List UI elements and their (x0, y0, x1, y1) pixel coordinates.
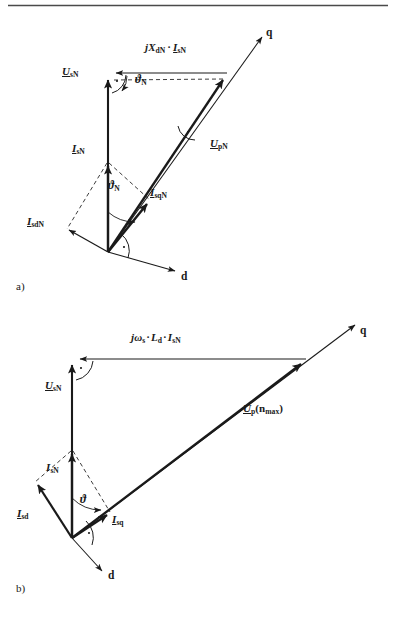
panel-b-dashed-IsN-to-Isq (73, 451, 110, 512)
panel-b-d-axis (72, 538, 102, 571)
panel-a-angle-theta-N-lower-sub: N (114, 184, 119, 193)
panel-b-label-I_sN-sub: sN (50, 466, 58, 475)
panel-a-q-axis-label: q (266, 27, 273, 39)
panel-a-label-I_sdN: IsdN (27, 216, 44, 228)
panel-a-dashed-UsN-to-UpN (114, 79, 223, 80)
panel-a-expr-dot: · (165, 41, 173, 53)
panel-b-vector-I_sd (38, 485, 72, 538)
panel-b-d-axis-label: d (108, 570, 115, 582)
panel-b-label-I_sq: Isq (112, 514, 124, 526)
panel-a-caption: a) (16, 281, 25, 292)
panel-b-expr-I-sub: sN (172, 336, 180, 345)
panel-b-label-U_sN-sub: sN (53, 384, 61, 393)
panel-b-right-angle-dot-UsN-tip (80, 367, 82, 369)
panel-a-right-angle-mark-origin (121, 234, 129, 258)
panel-b-expr-L: L (151, 331, 158, 343)
panel-a-label-I_sqN: IsqN (150, 187, 167, 199)
panel-a-vector-I_sdN (69, 230, 108, 252)
panel-a-label-jXdN-IsN: jXdN·IsN (145, 42, 186, 54)
panel-b-angle-theta-symbol: ϑ (80, 493, 86, 505)
panel-b-theta-arc-origin (72, 498, 101, 510)
panel-a-q-axis (108, 37, 262, 252)
panel-a-label-I_sN: IsN (72, 143, 85, 155)
panel-a-d-axis (108, 252, 175, 271)
panel-a-label-U_sN-sub: sN (70, 70, 78, 79)
panel-b-label-I_sd: Isd (17, 508, 29, 520)
panel-b-expr-omega: ω (134, 331, 142, 343)
panel-b-label-U_sN-base: U (45, 379, 53, 391)
figure-root: UsN jXdN·IsN UpN IsN IsqN IsdN ϑN ϑN q d… (0, 0, 395, 620)
panel-b-label-U_sN: UsN (45, 380, 62, 392)
panel-a-angle-theta-N-lower: ϑN (108, 180, 120, 192)
panel-b-q-axis-label: q (360, 325, 367, 337)
panel-b-label-I_sN: IsN (46, 462, 59, 474)
panel-a-label-U_pN-sub: pN (218, 142, 228, 151)
panel-a-theta-arc-upper (122, 76, 127, 91)
panel-b-label-I_sd-sub: sd (21, 512, 28, 521)
panel-a-label-U_pN: UpN (210, 138, 228, 150)
panel-a-angle-theta-N-upper-sub: N (141, 78, 146, 87)
phasor-diagram-canvas (0, 0, 395, 620)
panel-a-geometry (67, 37, 262, 271)
panel-b-right-angle-dot-origin (88, 532, 90, 534)
panel-a-angle-theta-N-upper: ϑN (135, 74, 147, 86)
panel-b-vector-I_sq (72, 515, 107, 538)
panel-b-label-U_p-base: U (243, 402, 251, 414)
panel-a-label-I_sN-sub: sN (76, 147, 84, 156)
panel-a-vector-I_sqN (108, 204, 147, 252)
panel-b-label-I_sq-sub: sq (116, 518, 123, 527)
panel-a-expr-X-sub: dN (156, 46, 166, 55)
panel-b-label-U_p-nmax: Up(nmax) (243, 403, 283, 415)
panel-b-angle-theta: ϑ (80, 494, 86, 506)
panel-a-expr-I-sub: sN (177, 46, 185, 55)
panel-b-right-angle-mark-UsN-tip (76, 361, 93, 380)
panel-a-right-angle-dot-origin (123, 246, 125, 248)
panel-a-label-U_pN-base: U (210, 137, 218, 149)
panel-a-label-U_sN: UsN (62, 66, 79, 78)
panel-a-label-I_sdN-sub: sdN (31, 220, 44, 229)
panel-a-right-angle-dot-UsN-tip (116, 80, 118, 82)
panel-a-vector-U_pN (108, 80, 223, 252)
panel-a-expr-X: X (148, 41, 155, 53)
panel-b-label-jws-Ld-IsN: jωs·Ld·IsN (131, 332, 181, 344)
panel-a-right-angle-mark-UsN-tip (112, 75, 126, 93)
panel-b-geometry (35, 325, 355, 571)
panel-a-d-axis-label: d (181, 271, 188, 283)
panel-b-caption: b) (16, 583, 25, 594)
panel-a-label-U_sN-base: U (62, 65, 70, 77)
panel-a-label-I_sqN-sub: sqN (154, 191, 167, 200)
panel-a-right-angle-dot-on-UpN (187, 131, 189, 133)
panel-b-vector-U_p-nmax (72, 364, 301, 538)
panel-a-dashed-IsN-to-IsdN (67, 163, 107, 229)
panel-b-label-U_p-paren: (nmax) (255, 402, 283, 414)
